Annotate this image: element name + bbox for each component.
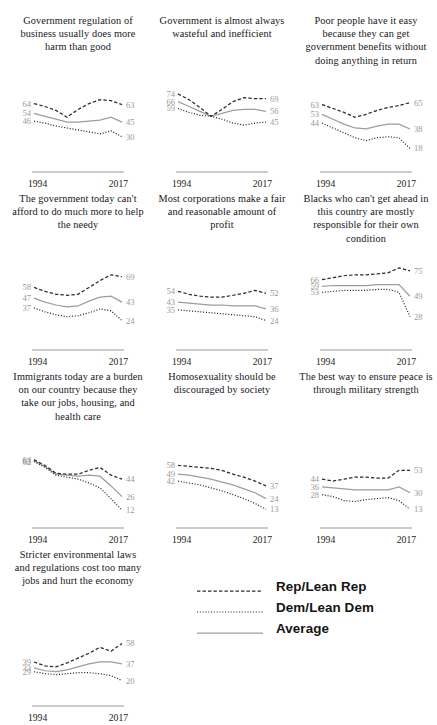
x-axis-start-label: 1994 bbox=[28, 712, 47, 723]
end-value-label: 45 bbox=[126, 117, 135, 127]
end-value-label: 45 bbox=[270, 117, 279, 127]
chart-legend: Rep/Lean RepDem/Lean DemAverage bbox=[196, 576, 408, 639]
series-line-dem bbox=[178, 310, 266, 321]
end-value-label: 28 bbox=[414, 312, 423, 322]
panel-chart: 39332958372019942017 bbox=[10, 590, 146, 725]
chart-panel: Government regulation of business usuall… bbox=[6, 14, 150, 192]
x-axis-end-label: 2017 bbox=[109, 356, 128, 367]
end-value-label: 38 bbox=[414, 124, 423, 134]
end-value-label: 75 bbox=[414, 266, 423, 276]
panel-title: The best way to ensure peace is through … bbox=[299, 370, 433, 396]
end-value-label: 37 bbox=[126, 659, 135, 669]
series-line-avg bbox=[34, 113, 122, 122]
sparkline-svg: 74665969564519942017 bbox=[154, 84, 290, 192]
series-line-rep bbox=[34, 100, 122, 118]
x-axis-end-label: 2017 bbox=[109, 178, 128, 189]
end-value-label: 24 bbox=[270, 494, 279, 504]
panel-title: Government is almost always wasteful and… bbox=[155, 14, 289, 40]
start-value-label: 35 bbox=[166, 305, 175, 315]
start-value-label: 58 bbox=[22, 282, 31, 292]
end-value-label: 13 bbox=[270, 504, 279, 514]
panel-title: Blacks who can't get ahead in this count… bbox=[299, 192, 433, 245]
panel-title: Government regulation of business usuall… bbox=[11, 14, 145, 54]
sparkline-svg: 44362853301319942017 bbox=[298, 440, 434, 548]
x-axis-end-label: 2017 bbox=[397, 534, 416, 545]
panel-chart: 74665969564519942017 bbox=[154, 42, 290, 192]
x-axis-end-label: 2017 bbox=[253, 356, 272, 367]
chart-panel: Stricter environmental laws and regulati… bbox=[6, 548, 150, 725]
sparkline-svg: 58473769432419942017 bbox=[10, 262, 146, 370]
end-value-label: 36 bbox=[270, 304, 279, 314]
panel-chart: 66595375492819942017 bbox=[298, 247, 434, 370]
start-value-label: 44 bbox=[310, 118, 319, 128]
series-line-dem bbox=[322, 123, 410, 148]
legend-item: Average bbox=[196, 618, 408, 639]
x-axis-start-label: 1994 bbox=[172, 178, 191, 189]
series-line-dem bbox=[178, 108, 266, 125]
panel-title: Most corporations make a fair and reason… bbox=[155, 192, 289, 232]
chart-panel: The government today can't afford to do … bbox=[6, 192, 150, 370]
series-line-avg bbox=[322, 285, 410, 297]
solid-line-icon bbox=[196, 624, 264, 634]
series-line-rep bbox=[322, 268, 410, 280]
end-value-label: 37 bbox=[270, 481, 279, 491]
series-line-dem bbox=[178, 481, 266, 509]
x-axis-end-label: 2017 bbox=[397, 178, 416, 189]
series-line-avg bbox=[322, 487, 410, 493]
chart-panel: Homosexuality should be discouraged by s… bbox=[150, 370, 294, 548]
series-line-dem bbox=[34, 308, 122, 321]
series-line-dem bbox=[34, 462, 122, 511]
x-axis-end-label: 2017 bbox=[253, 178, 272, 189]
start-value-label: 53 bbox=[310, 287, 319, 297]
x-axis-start-label: 1994 bbox=[28, 178, 47, 189]
end-value-label: 30 bbox=[414, 488, 423, 498]
series-line-dem bbox=[322, 495, 410, 510]
end-value-label: 69 bbox=[126, 272, 135, 282]
panel-title: Stricter environmental laws and regulati… bbox=[11, 548, 145, 588]
series-line-dem bbox=[322, 289, 410, 316]
series-line-avg bbox=[178, 474, 266, 498]
end-value-label: 44 bbox=[126, 474, 135, 484]
x-axis-end-label: 2017 bbox=[397, 356, 416, 367]
panel-chart: 58473769432419942017 bbox=[10, 234, 146, 370]
panel-title: Homosexuality should be discouraged by s… bbox=[155, 370, 289, 396]
legend-label: Dem/Lean Dem bbox=[276, 600, 374, 615]
sparkline-svg: 63534465381819942017 bbox=[298, 84, 434, 192]
sparkline-svg: 64544663453019942017 bbox=[10, 84, 146, 192]
series-line-avg bbox=[34, 662, 122, 672]
sparkline-svg: 58494237241319942017 bbox=[154, 440, 290, 548]
sparkline-svg: 54433552362419942017 bbox=[154, 262, 290, 370]
end-value-label: 26 bbox=[126, 492, 135, 502]
chart-panel: The best way to ensure peace is through … bbox=[294, 370, 437, 548]
series-line-rep bbox=[34, 643, 122, 666]
x-axis-end-label: 2017 bbox=[109, 534, 128, 545]
series-line-rep bbox=[322, 470, 410, 481]
end-value-label: 20 bbox=[126, 676, 135, 686]
x-axis-start-label: 1994 bbox=[316, 534, 335, 545]
series-line-avg bbox=[178, 302, 266, 309]
start-value-label: 42 bbox=[166, 476, 175, 486]
series-line-rep bbox=[178, 290, 266, 297]
chart-panel: Poor people have it easy because they ca… bbox=[294, 14, 437, 192]
start-value-label: 29 bbox=[22, 667, 31, 677]
legend-item: Rep/Lean Rep bbox=[196, 576, 408, 597]
series-line-rep bbox=[34, 275, 122, 295]
series-line-avg bbox=[34, 296, 122, 307]
series-line-avg bbox=[322, 114, 410, 129]
x-axis-start-label: 1994 bbox=[28, 534, 47, 545]
panel-title: The government today can't afford to do … bbox=[11, 192, 145, 232]
x-axis-start-label: 1994 bbox=[172, 534, 191, 545]
end-value-label: 58 bbox=[126, 638, 135, 648]
panel-chart: 64544663453019942017 bbox=[10, 56, 146, 192]
start-value-label: 64 bbox=[22, 99, 31, 109]
panel-chart: 64636244261219942017 bbox=[10, 425, 146, 548]
end-value-label: 12 bbox=[126, 505, 135, 515]
series-line-dem bbox=[34, 672, 122, 681]
end-value-label: 13 bbox=[414, 504, 423, 514]
chart-panel: Government is almost always wasteful and… bbox=[150, 14, 294, 192]
start-value-label: 46 bbox=[22, 116, 31, 126]
end-value-label: 63 bbox=[126, 100, 135, 110]
end-value-label: 24 bbox=[126, 316, 135, 326]
x-axis-start-label: 1994 bbox=[28, 356, 47, 367]
chart-panel: Immigrants today are a burden on our cou… bbox=[6, 370, 150, 548]
